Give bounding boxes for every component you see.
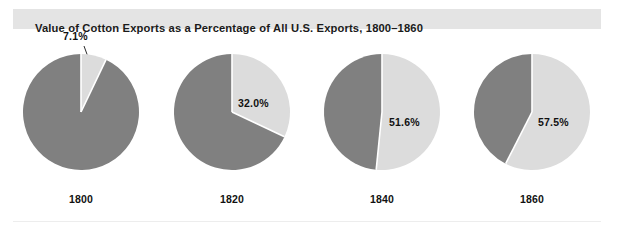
slice-cotton-1840 <box>376 54 440 170</box>
pie-chart-1820: 32.0% 1820 <box>157 30 307 210</box>
pie-svg-1800 <box>6 30 156 190</box>
percent-label-1800: 7.1% <box>63 30 88 42</box>
percent-label-1840: 51.6% <box>389 116 420 128</box>
pie-chart-row: 7.1% 1800 32.0% 1820 <box>0 30 617 210</box>
pie-chart-1840: 51.6% 1840 <box>307 30 457 210</box>
pie-graphic-1820 <box>157 30 307 190</box>
pie-graphic-1800 <box>6 30 156 190</box>
title-band: Value of Cotton Exports as a Percentage … <box>13 9 601 29</box>
year-label-1800: 1800 <box>6 193 156 205</box>
slice-other-1840 <box>324 54 382 170</box>
figure-canvas: Value of Cotton Exports as a Percentage … <box>0 0 617 234</box>
year-label-1840: 1840 <box>307 193 457 205</box>
pie-svg-1860 <box>457 30 607 190</box>
percent-label-1860: 57.5% <box>538 116 569 128</box>
bottom-divider <box>13 221 601 222</box>
year-label-1820: 1820 <box>157 193 307 205</box>
pie-graphic-1860 <box>457 30 607 190</box>
percent-label-1820: 32.0% <box>238 97 269 109</box>
pie-svg-1820 <box>157 30 307 190</box>
pie-graphic-1840 <box>307 30 457 190</box>
year-label-1860: 1860 <box>457 193 607 205</box>
pie-chart-1860: 57.5% 1860 <box>457 30 607 210</box>
pie-chart-1800: 7.1% 1800 <box>6 30 156 210</box>
pie-svg-1840 <box>307 30 457 190</box>
